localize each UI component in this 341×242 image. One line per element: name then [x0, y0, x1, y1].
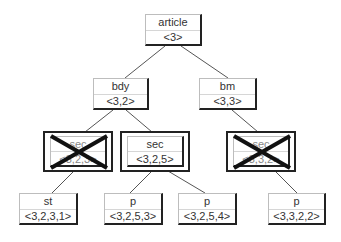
- node-id: <3,3>: [200, 95, 255, 110]
- node-id: <3,2,3,1>: [20, 210, 76, 225]
- tree-node-p-3322: p <3,3,2,2>: [268, 193, 326, 225]
- tree-node-article: article <3>: [145, 14, 202, 46]
- node-label: bdy: [94, 79, 147, 95]
- tree-node-sec-crossed-right: sec <3,3,2>: [226, 131, 296, 172]
- node-label: sec: [128, 137, 182, 152]
- node-label: p: [179, 194, 235, 210]
- node-id: <3,2,5,3>: [105, 210, 161, 225]
- node-label: article: [146, 15, 200, 31]
- node-id: <3,2>: [94, 95, 147, 110]
- node-label: bm: [200, 79, 255, 95]
- tree-node-sec: sec <3,2,5>: [127, 136, 184, 167]
- node-id: <3,2,5>: [128, 152, 182, 166]
- tree-node-bm: bm <3,3>: [199, 78, 257, 110]
- node-id: <3>: [146, 31, 200, 46]
- tree-node-p-3253: p <3,2,5,3>: [104, 193, 163, 225]
- tree-node-p-3254: p <3,2,5,4>: [178, 193, 237, 225]
- cross-out-icon: [228, 133, 294, 170]
- tree-node-st: st <3,2,3,1>: [19, 193, 78, 225]
- tree-node-bdy: bdy <3,2>: [93, 78, 149, 110]
- cross-out-icon: [45, 133, 111, 170]
- tree-node-sec-crossed-left: sec <3,2,3>: [43, 131, 113, 172]
- node-id: <3,2,5,4>: [179, 210, 235, 225]
- node-id: <3,3,2,2>: [269, 210, 324, 225]
- node-label: st: [20, 194, 76, 210]
- node-label: p: [105, 194, 161, 210]
- node-label: p: [269, 194, 324, 210]
- tree-node-sec-mid: sec <3,2,5>: [120, 131, 190, 172]
